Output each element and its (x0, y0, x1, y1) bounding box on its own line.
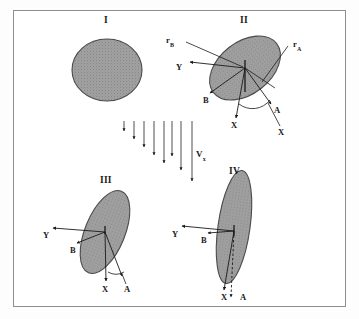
panel-IV-axis-b-label: B (201, 236, 207, 245)
panel-II-radius-b-label: rB (166, 36, 174, 47)
panel-numeral-III: III (100, 176, 112, 186)
radius-a-subscript: A (297, 46, 302, 52)
figure-canvas: I II III IV rB rA Y B X A X Vx Y B X A Y… (0, 0, 359, 319)
panel-II-axis-x-label: X (231, 121, 237, 130)
panel-IV-axis-a-label: A (240, 293, 246, 302)
panel-numeral-IV: IV (229, 167, 240, 177)
panel-III-axis-y-label: Y (43, 231, 49, 240)
panel-II-radius-a-label: rA (293, 40, 302, 51)
panel-I-shape (72, 39, 142, 101)
diagram-vector-layer (0, 0, 359, 319)
flow-symbol: V (196, 149, 203, 159)
panel-II-axis-b-label: B (203, 96, 209, 105)
radius-b-subscript: B (170, 42, 174, 48)
panel-III-axis-b-label: B (70, 246, 76, 255)
panel-numeral-I: I (104, 16, 108, 26)
flow-arrows (124, 121, 192, 181)
panel-IV-axis-x-label: X (221, 293, 227, 302)
flow-velocity-label: Vx (196, 150, 206, 161)
panel-II-body-x-label: X (278, 128, 284, 137)
panel-II-axis-y-label: Y (176, 63, 182, 72)
panel-II-axis-a-label: A (274, 106, 280, 115)
panel-III-axis-a-label: A (124, 285, 130, 294)
flow-subscript: x (203, 156, 206, 162)
panel-IV-axis-y-label: Y (172, 230, 178, 239)
panel-numeral-II: II (240, 16, 248, 26)
panel-III-axis-x-label: X (102, 285, 108, 294)
